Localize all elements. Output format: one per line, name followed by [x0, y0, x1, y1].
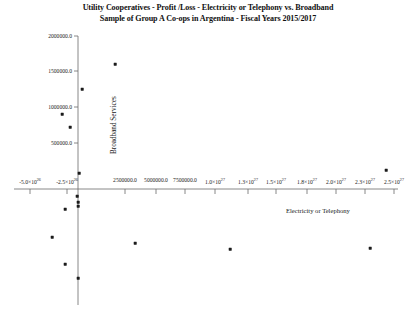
y-tick-label: 1500000.0 [48, 68, 72, 74]
x-tick-label: 2500000.0 [113, 177, 137, 183]
x-tick-label: 7500000.0 [173, 177, 197, 183]
plot-area: 2000000.01500000.01000000.0500000.0 -5.0… [0, 0, 416, 311]
data-point [77, 201, 80, 204]
scatter-chart: Utility Cooperatives - Profit /Loss - El… [0, 0, 416, 311]
data-point [114, 63, 117, 66]
data-point [64, 208, 67, 211]
data-point [229, 248, 232, 251]
data-point [61, 113, 64, 116]
x-tick-label: 1.0×1027 [205, 177, 225, 185]
data-point [81, 88, 84, 91]
y-tick-label: 500000.0 [51, 140, 72, 146]
x-tick-label: -2.5×1026 [56, 177, 78, 185]
x-tick-label: 2.3×1027 [355, 177, 375, 185]
data-point [64, 263, 67, 266]
y-tick-label: 1000000.0 [48, 104, 72, 110]
data-point [51, 236, 54, 239]
data-point [385, 169, 388, 172]
data-point [77, 205, 80, 208]
data-point [78, 172, 81, 175]
x-tick-label: -5.0×1026 [19, 177, 41, 185]
y-tick-label: 2000000.0 [48, 33, 72, 39]
x-tick-label: 1.8×1027 [297, 177, 317, 185]
y-axis-title: Broadband Services [110, 96, 118, 154]
x-axis-title: Electricity or Telephony [286, 207, 350, 214]
y-axis-ticks [74, 36, 78, 143]
x-tick-label: 1.5×1027 [266, 177, 286, 185]
x-tick-label: 2.0×1027 [326, 177, 346, 185]
axis-lines [0, 0, 416, 311]
x-tick-label: 5000000.0 [144, 177, 168, 183]
data-point [76, 195, 79, 198]
data-point [369, 247, 372, 250]
x-axis-ticks [30, 189, 394, 194]
x-tick-label: 1.3×1027 [238, 177, 258, 185]
x-tick-label: 2.5×1027 [384, 177, 404, 185]
data-point [69, 126, 72, 129]
data-point [77, 277, 80, 280]
data-point [134, 242, 137, 245]
